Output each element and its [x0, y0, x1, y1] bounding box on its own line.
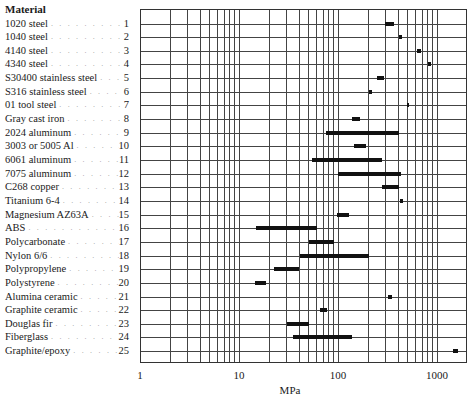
range-bar [377, 76, 383, 80]
material-row-label: S30400 stainless steel. . . . . . . . . … [5, 71, 129, 84]
leader-dots: . . . . . . . . . . . . . . . . . . . . … [97, 71, 121, 84]
range-bar [338, 172, 401, 176]
material-row-label: ABS. . . . . . . . . . . . . . . . . . .… [5, 221, 129, 234]
leader-dots: . . . . . . . . . . . . . . . . . . . . … [53, 317, 119, 330]
range-bar [382, 185, 399, 189]
leader-dots: . . . . . . . . . . . . . . . . . . . . … [56, 98, 121, 111]
row-gridline [141, 242, 466, 243]
leader-dots: . . . . . . . . . . . . . . . . . . . . … [55, 276, 119, 289]
material-number: 11 [119, 153, 129, 166]
minor-gridline [170, 10, 171, 362]
chart-plot-area [140, 9, 467, 363]
material-number: 14 [119, 194, 130, 207]
material-number: 2 [121, 30, 129, 43]
decade-gridline [239, 10, 240, 362]
leader-dots: . . . . . . . . . . . . . . . . . . . . … [47, 249, 118, 262]
material-row-label: Graphite ceramic. . . . . . . . . . . . … [5, 303, 129, 316]
material-row-label: Magnesium AZ63A. . . . . . . . . . . . .… [5, 208, 129, 221]
material-name: Magnesium AZ63A [5, 208, 89, 221]
material-number: 21 [119, 290, 130, 303]
leader-dots: . . . . . . . . . . . . . . . . . . . . … [87, 85, 121, 98]
material-row-label: 01 tool steel. . . . . . . . . . . . . .… [5, 98, 129, 111]
leader-dots: . . . . . . . . . . . . . . . . . . . . … [71, 126, 121, 139]
material-number: 9 [121, 126, 129, 139]
material-name: 01 tool steel [5, 98, 56, 111]
material-row-label: Polystyrene. . . . . . . . . . . . . . .… [5, 276, 129, 289]
minor-gridline [333, 10, 334, 362]
minor-gridline [432, 10, 433, 362]
leader-dots: . . . . . . . . . . . . . . . . . . . . … [59, 180, 119, 193]
row-gridline [141, 160, 466, 161]
minor-gridline [200, 10, 201, 362]
range-bar [417, 49, 421, 53]
leader-dots: . . . . . . . . . . . . . . . . . . . . … [60, 194, 119, 207]
material-row-label: 1020 steel. . . . . . . . . . . . . . . … [5, 17, 129, 30]
material-name: 1020 steel [5, 17, 48, 30]
x-tick-1000: 1000 [426, 369, 448, 381]
material-name: Polypropylene [5, 262, 66, 275]
minor-gridline [407, 10, 408, 362]
leader-dots: . . . . . . . . . . . . . . . . . . . . … [71, 167, 118, 180]
x-tick-1: 1 [137, 369, 143, 381]
leader-dots: . . . . . . . . . . . . . . . . . . . . … [64, 112, 121, 125]
minor-gridline [415, 10, 416, 362]
range-bar [399, 35, 402, 39]
material-row-label: Graphite/epoxy. . . . . . . . . . . . . … [5, 344, 129, 357]
leader-dots: . . . . . . . . . . . . . . . . . . . . … [48, 44, 121, 57]
leader-dots: . . . . . . . . . . . . . . . . . . . . … [48, 17, 121, 30]
range-bar [326, 131, 399, 135]
leader-dots: . . . . . . . . . . . . . . . . . . . . … [48, 30, 121, 43]
material-name: 7075 aluminum [5, 167, 71, 180]
material-row-label: Alumina ceramic. . . . . . . . . . . . .… [5, 290, 129, 303]
material-row-label: 4140 steel. . . . . . . . . . . . . . . … [5, 44, 129, 57]
minor-gridline [224, 10, 225, 362]
row-gridline [141, 78, 466, 79]
material-row-label: C268 copper. . . . . . . . . . . . . . .… [5, 180, 129, 193]
range-bar [369, 90, 372, 94]
material-name: 4140 steel [5, 44, 48, 57]
material-row-label: 3003 or 5005 Al. . . . . . . . . . . . .… [5, 139, 129, 152]
leader-dots: . . . . . . . . . . . . . . . . . . . . … [78, 303, 119, 316]
material-number: 4 [121, 57, 129, 70]
row-gridline [141, 64, 466, 65]
material-number: 22 [119, 303, 130, 316]
x-tick-100: 100 [330, 369, 347, 381]
leader-dots: . . . . . . . . . . . . . . . . . . . . … [74, 139, 119, 152]
material-number: 15 [119, 208, 130, 221]
column-header-material: Material [5, 3, 46, 15]
material-name: 2024 aluminum [5, 126, 71, 139]
range-bar [256, 226, 317, 230]
row-gridline [141, 283, 466, 284]
material-row-label: Titanium 6-4. . . . . . . . . . . . . . … [5, 194, 129, 207]
material-number: 17 [119, 235, 130, 248]
minor-gridline [187, 10, 188, 362]
material-number: 3 [121, 44, 129, 57]
material-row-label: 4340 steel. . . . . . . . . . . . . . . … [5, 57, 129, 70]
material-number: 10 [119, 139, 130, 152]
leader-dots: . . . . . . . . . . . . . . . . . . . . … [48, 330, 119, 343]
range-bar [293, 335, 353, 339]
material-number: 18 [119, 249, 130, 262]
row-gridline [141, 119, 466, 120]
leader-dots: . . . . . . . . . . . . . . . . . . . . … [70, 344, 118, 357]
x-tick-10: 10 [234, 369, 245, 381]
leader-dots: . . . . . . . . . . . . . . . . . . . . … [66, 262, 118, 275]
material-name: Fiberglass [5, 330, 48, 343]
material-name: 4340 steel [5, 57, 48, 70]
minor-gridline [299, 10, 300, 362]
row-gridline [141, 215, 466, 216]
leader-dots: . . . . . . . . . . . . . . . . . . . . … [78, 290, 119, 303]
range-bar [388, 295, 392, 299]
leader-dots: . . . . . . . . . . . . . . . . . . . . … [65, 235, 118, 248]
material-row-label: 2024 aluminum. . . . . . . . . . . . . .… [5, 126, 129, 139]
leader-dots: . . . . . . . . . . . . . . . . . . . . … [71, 153, 119, 166]
material-name: S30400 stainless steel [5, 71, 97, 84]
minor-gridline [209, 10, 210, 362]
material-name: 3003 or 5005 Al [5, 139, 74, 152]
leader-dots: . . . . . . . . . . . . . . . . . . . . … [25, 221, 118, 234]
range-bar [385, 22, 394, 26]
range-bar [255, 281, 266, 285]
range-bar [400, 199, 403, 203]
row-gridline [141, 187, 466, 188]
range-bar [453, 349, 458, 353]
